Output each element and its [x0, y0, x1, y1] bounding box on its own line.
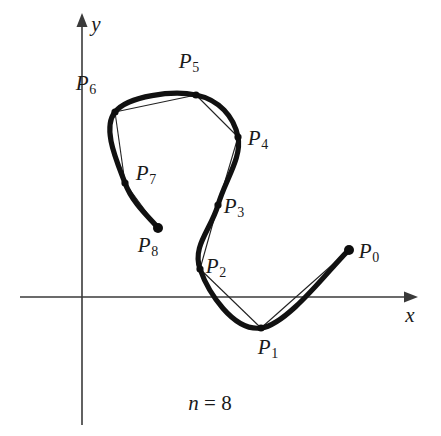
- control-point-p6[interactable]: [111, 108, 118, 115]
- x-axis-label: x: [405, 303, 414, 328]
- point-label-base: P: [224, 194, 237, 218]
- point-label-p1: P1: [258, 337, 278, 361]
- point-label-base: P: [179, 49, 192, 73]
- point-label-base: P: [138, 233, 151, 257]
- point-label-subscript: 6: [89, 82, 97, 97]
- control-point-p5[interactable]: [192, 91, 199, 98]
- control-point-p3[interactable]: [214, 201, 221, 208]
- spline-canvas: [0, 0, 441, 436]
- point-label-p7: P7: [136, 163, 156, 187]
- spline-figure: P0P1P2P3P4P5P6P7P8 x y n = 8: [0, 0, 441, 436]
- point-label-subscript: 4: [261, 137, 269, 152]
- point-label-p3: P3: [224, 196, 244, 220]
- x-axis-arrowhead: [404, 292, 418, 303]
- point-label-p0: P0: [359, 241, 379, 265]
- point-label-base: P: [136, 161, 149, 185]
- control-point-p1[interactable]: [257, 324, 264, 331]
- point-label-base: P: [258, 335, 271, 359]
- point-label-p5: P5: [179, 51, 199, 75]
- point-label-subscript: 8: [151, 244, 159, 259]
- y-axis-label: y: [91, 12, 100, 37]
- y-axis-arrowhead: [77, 13, 88, 27]
- point-label-subscript: 5: [192, 60, 200, 75]
- point-label-p6: P6: [76, 73, 96, 97]
- point-label-base: P: [248, 126, 261, 150]
- control-point-p2[interactable]: [196, 265, 203, 272]
- caption-variable: n: [188, 391, 199, 415]
- point-label-base: P: [76, 71, 89, 95]
- control-point-p0[interactable]: [344, 245, 354, 255]
- point-label-subscript: 1: [271, 346, 279, 361]
- point-label-base: P: [206, 254, 219, 278]
- control-point-p4[interactable]: [234, 133, 241, 140]
- point-label-p2: P2: [206, 256, 226, 280]
- point-label-p4: P4: [248, 128, 268, 152]
- figure-caption: n = 8: [188, 391, 231, 416]
- control-point-p8[interactable]: [153, 223, 163, 233]
- point-label-p8: P8: [138, 235, 158, 259]
- point-label-base: P: [359, 239, 372, 263]
- caption-rest: = 8: [199, 391, 232, 415]
- point-label-subscript: 0: [372, 250, 380, 265]
- point-label-subscript: 7: [149, 172, 157, 187]
- point-label-subscript: 3: [237, 205, 245, 220]
- control-point-p7[interactable]: [121, 179, 128, 186]
- point-label-subscript: 2: [219, 265, 227, 280]
